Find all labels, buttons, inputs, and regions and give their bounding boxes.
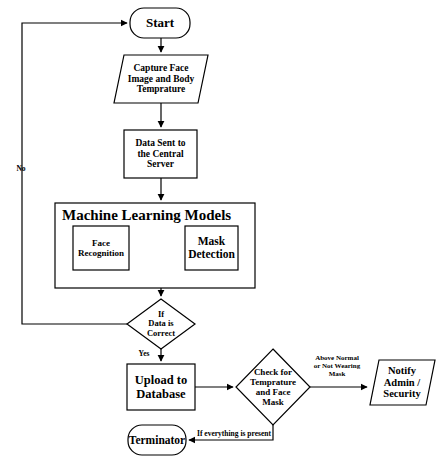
edge-label-yes: Yes xyxy=(131,350,157,358)
node-check-temp-mask[interactable] xyxy=(236,349,310,425)
node-capture[interactable] xyxy=(114,55,208,103)
node-upload-db[interactable] xyxy=(127,364,195,410)
node-ml-models[interactable] xyxy=(55,203,255,226)
edge-label-no: No xyxy=(8,165,34,173)
flowchart-canvas: Start Capture Face Image and Body Tempra… xyxy=(0,0,442,463)
node-data-sent[interactable] xyxy=(124,130,197,178)
node-terminator[interactable] xyxy=(128,425,186,455)
edge-label-everything-present: If everything is present xyxy=(188,430,280,438)
node-notify[interactable] xyxy=(370,360,435,405)
node-data-correct[interactable] xyxy=(127,299,195,349)
node-start[interactable] xyxy=(130,8,190,38)
node-mask-detection[interactable] xyxy=(185,226,238,270)
edge-label-above-normal: Above Normal or Not Wearing Mask xyxy=(301,355,373,378)
node-face-recognition[interactable] xyxy=(73,226,129,270)
